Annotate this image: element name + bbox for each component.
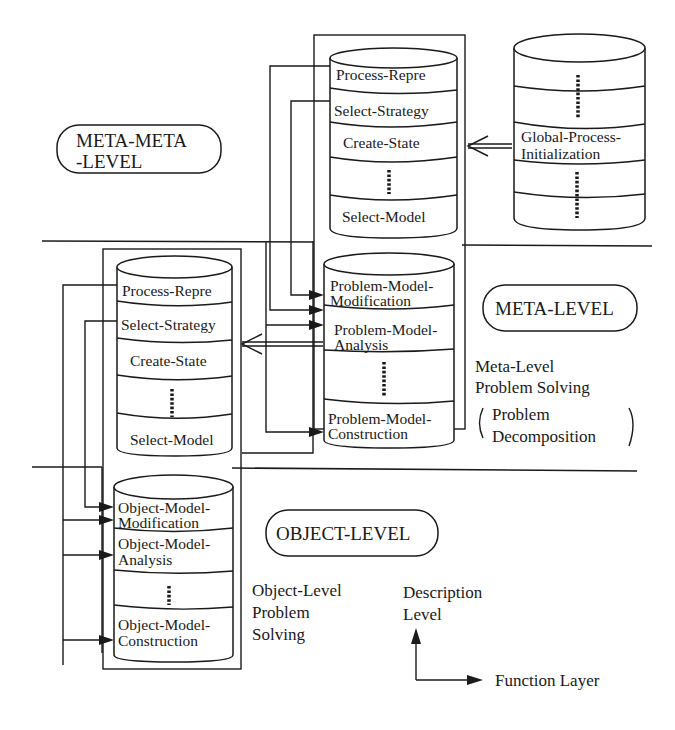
separator-meta-meta-left xyxy=(42,241,313,242)
cell-pm-modification-2: Modification xyxy=(330,292,411,309)
cell-pm-construction-2: Construction xyxy=(328,425,408,442)
cell-meta-select-model: Select-Model xyxy=(130,431,214,448)
cell-om-analysis-2: Analysis xyxy=(118,551,172,568)
cell-pm-analysis-2: Analysis xyxy=(334,336,388,353)
cell-select-model: Select-Model xyxy=(342,208,426,225)
cell-om-modification-2: Modification xyxy=(118,514,199,531)
meta-level-badge: META-LEVEL xyxy=(483,285,637,331)
meta-to-object-arrow xyxy=(242,334,323,354)
object-level-badge: OBJECT-LEVEL xyxy=(266,510,438,556)
meta-paren-caption-1: Problem xyxy=(492,405,550,424)
axis-vertical-label-2: Level xyxy=(403,605,442,624)
object-solving-caption-1: Object-Level xyxy=(252,581,342,600)
global-init-arrow xyxy=(468,136,512,156)
object-model-cylinder: Object-Model- Modification Object-Model-… xyxy=(114,475,233,662)
cell-create-state: Create-State xyxy=(343,134,420,151)
cell-om-construction-2: Construction xyxy=(118,632,198,649)
axis-vertical-label-1: Description xyxy=(403,583,483,602)
object-level-label: OBJECT-LEVEL xyxy=(276,523,410,544)
knowledge-level-diagram: META-META -LEVEL META-LEVEL OBJECT-LEVEL… xyxy=(0,0,675,730)
paren-left-icon xyxy=(480,408,484,438)
global-process-cylinder: Global-Process- Initialization xyxy=(514,34,645,230)
meta-paren-caption-2: Decomposition xyxy=(492,427,596,446)
cell-om-construction-1: Object-Model- xyxy=(118,616,210,633)
separator-meta-meta-right xyxy=(462,245,652,246)
cell-meta-select-strategy: Select-Strategy xyxy=(121,316,216,333)
problem-model-cylinder: Problem-Model- Modification Problem-Mode… xyxy=(324,253,454,448)
meta-meta-level-label-1: META-META xyxy=(76,130,187,151)
cell-select-strategy: Select-Strategy xyxy=(334,102,429,119)
cell-om-analysis-1: Object-Model- xyxy=(118,535,210,552)
meta-level-label: META-LEVEL xyxy=(495,298,614,319)
cell-global-process-1: Global-Process- xyxy=(521,128,621,145)
object-solving-caption-3: Solving xyxy=(252,625,305,644)
paren-right-icon xyxy=(629,408,633,446)
axis-horizontal-label: Function Layer xyxy=(495,671,600,690)
cell-process-repre: Process-Repre xyxy=(336,66,426,83)
cell-meta-process-repre: Process-Repre xyxy=(122,282,212,299)
separator-object-right xyxy=(232,468,637,471)
axes-legend: Description Level Function Layer xyxy=(403,583,600,690)
meta-meta-connectors xyxy=(242,35,330,453)
meta-solving-caption-1: Meta-Level xyxy=(475,357,555,376)
meta-solving-caption-2: Problem Solving xyxy=(475,378,590,397)
meta-connectors xyxy=(63,285,117,665)
object-solving-caption-2: Problem xyxy=(252,603,310,622)
cell-global-process-2: Initialization xyxy=(521,145,600,162)
arrow-up-icon xyxy=(411,628,421,644)
meta-process-cylinder: Process-Repre Select-Strategy Create-Sta… xyxy=(117,256,232,456)
meta-meta-level-label-2: -LEVEL xyxy=(76,151,142,172)
cell-meta-create-state: Create-State xyxy=(130,352,207,369)
meta-meta-process-cylinder: Process-Repre Select-Strategy Create-Sta… xyxy=(330,48,457,238)
meta-meta-level-badge: META-META -LEVEL xyxy=(57,125,221,173)
arrow-right-icon xyxy=(467,675,483,685)
